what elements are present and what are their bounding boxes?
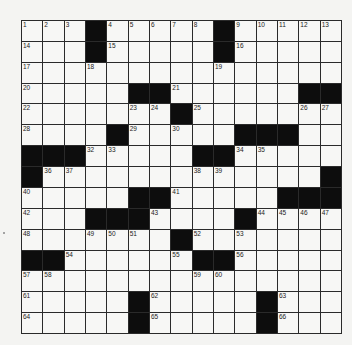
grid-cell[interactable] — [321, 251, 341, 271]
grid-cell[interactable]: 59 — [193, 271, 213, 291]
grid-cell[interactable] — [299, 63, 319, 83]
grid-cell[interactable]: 40 — [22, 188, 42, 208]
grid-cell[interactable] — [65, 125, 85, 145]
grid-cell[interactable] — [65, 230, 85, 250]
grid-cell[interactable]: 49 — [86, 230, 106, 250]
grid-cell[interactable] — [65, 313, 85, 333]
grid-cell[interactable] — [193, 125, 213, 145]
grid-cell[interactable]: 3 — [65, 21, 85, 41]
grid-cell[interactable] — [86, 188, 106, 208]
grid-cell[interactable] — [278, 42, 298, 62]
grid-cell[interactable] — [150, 146, 170, 166]
grid-cell[interactable]: 57 — [22, 271, 42, 291]
grid-cell[interactable]: 30 — [171, 125, 191, 145]
grid-cell[interactable]: 11 — [278, 21, 298, 41]
grid-cell[interactable] — [65, 292, 85, 312]
grid-cell[interactable] — [150, 63, 170, 83]
grid-cell[interactable] — [171, 292, 191, 312]
grid-cell[interactable]: 39 — [214, 167, 234, 187]
grid-cell[interactable] — [321, 230, 341, 250]
grid-cell[interactable]: 60 — [214, 271, 234, 291]
grid-cell[interactable]: 16 — [235, 42, 255, 62]
grid-cell[interactable] — [129, 42, 149, 62]
grid-cell[interactable] — [257, 104, 277, 124]
grid-cell[interactable] — [278, 146, 298, 166]
grid-cell[interactable] — [171, 42, 191, 62]
grid-cell[interactable] — [235, 292, 255, 312]
grid-cell[interactable]: 46 — [299, 209, 319, 229]
grid-cell[interactable] — [214, 188, 234, 208]
grid-cell[interactable]: 18 — [86, 63, 106, 83]
grid-cell[interactable] — [129, 63, 149, 83]
grid-cell[interactable]: 28 — [22, 125, 42, 145]
grid-cell[interactable] — [278, 230, 298, 250]
grid-cell[interactable]: 52 — [193, 230, 213, 250]
grid-cell[interactable] — [193, 188, 213, 208]
grid-cell[interactable] — [321, 313, 341, 333]
grid-cell[interactable]: 55 — [171, 251, 191, 271]
grid-cell[interactable] — [86, 292, 106, 312]
grid-cell[interactable] — [321, 63, 341, 83]
grid-cell[interactable] — [214, 209, 234, 229]
grid-cell[interactable] — [43, 125, 63, 145]
grid-cell[interactable] — [321, 292, 341, 312]
grid-cell[interactable] — [129, 167, 149, 187]
grid-cell[interactable] — [278, 271, 298, 291]
grid-cell[interactable] — [235, 167, 255, 187]
grid-cell[interactable]: 17 — [22, 63, 42, 83]
grid-cell[interactable] — [278, 84, 298, 104]
grid-cell[interactable]: 26 — [299, 104, 319, 124]
grid-cell[interactable]: 53 — [235, 230, 255, 250]
grid-cell[interactable] — [299, 125, 319, 145]
grid-cell[interactable]: 51 — [129, 230, 149, 250]
grid-cell[interactable] — [86, 271, 106, 291]
grid-cell[interactable] — [86, 167, 106, 187]
grid-cell[interactable] — [129, 251, 149, 271]
grid-cell[interactable]: 15 — [107, 42, 127, 62]
grid-cell[interactable] — [65, 271, 85, 291]
grid-cell[interactable] — [43, 188, 63, 208]
grid-cell[interactable] — [278, 63, 298, 83]
grid-cell[interactable]: 41 — [171, 188, 191, 208]
grid-cell[interactable] — [150, 230, 170, 250]
grid-cell[interactable]: 32 — [86, 146, 106, 166]
grid-cell[interactable]: 47 — [321, 209, 341, 229]
grid-cell[interactable]: 44 — [257, 209, 277, 229]
grid-cell[interactable] — [107, 104, 127, 124]
grid-cell[interactable] — [299, 292, 319, 312]
grid-cell[interactable]: 43 — [150, 209, 170, 229]
grid-cell[interactable] — [86, 104, 106, 124]
grid-cell[interactable] — [65, 209, 85, 229]
grid-cell[interactable]: 24 — [150, 104, 170, 124]
grid-cell[interactable] — [193, 42, 213, 62]
grid-cell[interactable]: 64 — [22, 313, 42, 333]
grid-cell[interactable]: 10 — [257, 21, 277, 41]
grid-cell[interactable]: 54 — [65, 251, 85, 271]
grid-cell[interactable] — [321, 42, 341, 62]
grid-cell[interactable]: 35 — [257, 146, 277, 166]
grid-cell[interactable] — [107, 63, 127, 83]
grid-cell[interactable]: 21 — [171, 84, 191, 104]
grid-cell[interactable] — [278, 251, 298, 271]
grid-cell[interactable] — [214, 125, 234, 145]
grid-cell[interactable] — [150, 42, 170, 62]
grid-cell[interactable] — [235, 271, 255, 291]
grid-cell[interactable]: 62 — [150, 292, 170, 312]
grid-cell[interactable] — [65, 84, 85, 104]
grid-cell[interactable] — [129, 271, 149, 291]
grid-cell[interactable] — [299, 230, 319, 250]
grid-cell[interactable]: 25 — [193, 104, 213, 124]
grid-cell[interactable] — [321, 271, 341, 291]
grid-cell[interactable]: 4 — [107, 21, 127, 41]
grid-cell[interactable] — [107, 271, 127, 291]
grid-cell[interactable]: 45 — [278, 209, 298, 229]
grid-cell[interactable] — [171, 313, 191, 333]
grid-cell[interactable] — [129, 146, 149, 166]
grid-cell[interactable] — [65, 63, 85, 83]
grid-cell[interactable] — [193, 292, 213, 312]
grid-cell[interactable] — [321, 146, 341, 166]
grid-cell[interactable] — [86, 125, 106, 145]
grid-cell[interactable] — [214, 230, 234, 250]
grid-cell[interactable] — [107, 188, 127, 208]
grid-cell[interactable] — [299, 271, 319, 291]
